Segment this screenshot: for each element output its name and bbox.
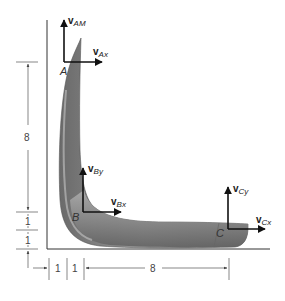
point-a-label: A (59, 65, 67, 77)
dim-vertical-1a: 1 (25, 216, 31, 227)
dim-horizontal-8: 8 (150, 263, 156, 274)
vector-vam-label: vAM (68, 15, 86, 28)
point-c-label: C (216, 227, 224, 239)
dim-horizontal-1a: 1 (55, 263, 61, 274)
vector-vcx-label: vCx (256, 214, 272, 227)
curved-body (59, 38, 248, 248)
point-b-label: B (72, 211, 79, 223)
horizontal-dimensions (33, 258, 229, 280)
vector-vax-label: vAx (93, 46, 109, 59)
point-a: A vAM vAx (59, 15, 109, 77)
vector-vby-label: vBy (88, 163, 104, 176)
dim-horizontal-1b: 1 (72, 263, 78, 274)
vector-vcy-label: vCy (233, 183, 249, 196)
dim-vertical-8: 8 (24, 132, 30, 143)
dim-vertical-1b: 1 (25, 235, 31, 246)
diagram-canvas: A vAM vAx B vBy vBx C vCy vCx 8 1 1 (0, 0, 285, 301)
vector-vbx-label: vBx (111, 196, 127, 209)
